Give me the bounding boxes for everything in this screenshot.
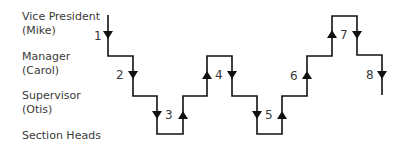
step-label-4: 4 xyxy=(215,69,223,81)
step-path xyxy=(0,0,405,152)
arrow-down-icon xyxy=(252,111,262,119)
step-label-7: 7 xyxy=(340,29,348,41)
step-label-6: 6 xyxy=(290,70,298,82)
arrow-up-icon xyxy=(302,71,312,79)
arrow-down-icon xyxy=(152,111,162,119)
arrow-down-icon xyxy=(103,31,113,39)
communication-path-diagram: Vice President (Mike) Manager (Carol) Su… xyxy=(0,0,405,152)
arrow-up-icon xyxy=(178,111,188,119)
arrow-down-icon xyxy=(227,71,237,79)
step-label-1: 1 xyxy=(94,30,102,42)
arrow-up-icon xyxy=(202,71,212,79)
arrow-up-icon xyxy=(277,111,287,119)
step-label-2: 2 xyxy=(116,69,124,81)
step-label-8: 8 xyxy=(366,69,374,81)
step-label-3: 3 xyxy=(165,109,173,121)
arrow-down-icon xyxy=(128,71,138,79)
arrow-down-icon xyxy=(352,31,362,39)
arrow-up-icon xyxy=(327,30,337,38)
step-label-5: 5 xyxy=(265,109,273,121)
arrow-down-icon xyxy=(377,71,387,79)
